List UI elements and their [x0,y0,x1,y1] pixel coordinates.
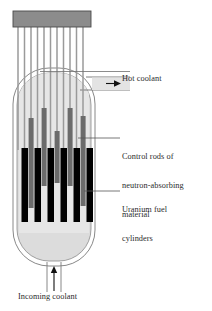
fuel-cylinder [48,148,55,222]
uranium-fuel-label: Uranium fuel cylinders [122,186,167,263]
fuel-cylinder [35,148,42,222]
control-rod-drive-plate [13,11,91,27]
control-rod [68,108,73,186]
incoming-coolant-arrow [51,266,57,291]
control-rods-label-line1: Control rods of [122,152,184,162]
fuel-cylinder [87,148,94,222]
fuel-cylinder [22,148,29,222]
incoming-coolant-label: Incoming coolant [18,292,77,302]
uranium-fuel-label-line2: cylinders [122,234,167,244]
reactor-diagram-figure: Hot coolant Control rods of neutron-abso… [0,0,212,311]
fuel-cylinder [74,148,81,222]
control-rod [29,118,34,208]
arrowhead-up [51,266,57,273]
hot-coolant-label: Hot coolant [122,74,162,84]
control-rod [55,131,60,183]
control-rod [81,116,86,206]
uranium-fuel-label-line1: Uranium fuel [122,205,167,215]
control-rod [42,108,47,186]
fuel-cylinder [61,148,68,222]
